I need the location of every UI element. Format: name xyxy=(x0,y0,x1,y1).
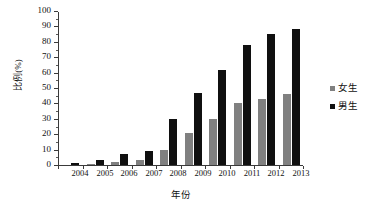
bar-male xyxy=(218,70,226,165)
bar-group xyxy=(257,12,279,165)
y-axis-tick: 70 xyxy=(54,57,58,58)
y-axis-minor-tick xyxy=(56,111,58,112)
legend-item-female: 女生 xyxy=(330,81,374,95)
bar-group xyxy=(110,12,132,165)
y-axis-tick-label: 100 xyxy=(38,5,52,16)
bar-male xyxy=(267,34,275,165)
y-axis-title: 比例(%) xyxy=(13,35,23,115)
chart-legend: 女生 男生 xyxy=(330,81,374,117)
bar-group xyxy=(282,12,304,165)
bar-male xyxy=(292,29,300,165)
y-axis-tick-label: 80 xyxy=(42,36,51,47)
bar-female xyxy=(209,119,217,165)
y-axis-tick-label: 70 xyxy=(42,51,51,62)
bar-group xyxy=(61,12,83,165)
y-axis-tick: 30 xyxy=(54,119,58,120)
legend-swatch-male-icon xyxy=(330,104,335,109)
y-axis-tick: 100 xyxy=(54,11,58,12)
y-axis-tick: 80 xyxy=(54,42,58,43)
y-axis-tick-label: 40 xyxy=(42,97,51,108)
legend-label-male: 男生 xyxy=(338,101,358,112)
bar-male xyxy=(71,163,79,165)
y-axis-minor-tick xyxy=(56,34,58,35)
y-axis-tick: 10 xyxy=(54,150,58,151)
bar-group xyxy=(135,12,157,165)
bar-group xyxy=(233,12,255,165)
bar-female xyxy=(136,160,144,165)
legend-swatch-female-icon xyxy=(330,86,335,91)
y-axis-minor-tick xyxy=(56,50,58,51)
bar-female xyxy=(87,164,95,165)
x-axis-title: 年份 xyxy=(58,190,303,201)
y-axis-minor-tick xyxy=(56,157,58,158)
bar-group xyxy=(208,12,230,165)
y-axis-minor-tick xyxy=(56,142,58,143)
bar-male xyxy=(169,119,177,165)
y-axis-tick: 50 xyxy=(54,88,58,89)
bar-chart: 比例(%) 0102030405060708090100 20042005200… xyxy=(0,0,374,216)
y-axis-tick-label: 90 xyxy=(42,20,51,31)
x-axis-tick xyxy=(58,166,59,169)
bar-male xyxy=(120,154,128,165)
bar-female xyxy=(283,94,291,165)
bar-male xyxy=(145,151,153,165)
bar-female xyxy=(185,133,193,165)
bar-female xyxy=(160,150,168,165)
y-axis-tick-label: 30 xyxy=(42,113,51,124)
y-axis-tick: 40 xyxy=(54,103,58,104)
y-axis-minor-tick xyxy=(56,19,58,20)
y-axis-tick-label: 50 xyxy=(42,82,51,93)
y-axis-tick: 60 xyxy=(54,73,58,74)
bar-group xyxy=(159,12,181,165)
y-axis-minor-tick xyxy=(56,65,58,66)
y-axis-minor-tick xyxy=(56,127,58,128)
y-axis-line xyxy=(58,12,59,166)
y-axis-tick-label: 0 xyxy=(47,159,52,170)
bar-female xyxy=(234,103,242,165)
bar-female xyxy=(111,162,119,165)
bar-female xyxy=(258,99,266,165)
bar-group xyxy=(86,12,108,165)
bar-group xyxy=(184,12,206,165)
bar-male xyxy=(96,160,104,165)
legend-label-female: 女生 xyxy=(338,83,358,94)
y-axis-minor-tick xyxy=(56,96,58,97)
legend-item-male: 男生 xyxy=(330,99,374,113)
y-axis-tick-label: 60 xyxy=(42,67,51,78)
y-axis-minor-tick xyxy=(56,80,58,81)
y-axis-tick-label: 10 xyxy=(42,144,51,155)
y-axis-tick: 90 xyxy=(54,26,58,27)
x-axis-tick-label: 2013 xyxy=(281,168,321,178)
plot-area: 0102030405060708090100 20042005200620072… xyxy=(58,12,303,166)
y-axis-tick: 20 xyxy=(54,134,58,135)
bar-male xyxy=(194,93,202,165)
y-axis-tick-label: 20 xyxy=(42,128,51,139)
bar-male xyxy=(243,45,251,165)
